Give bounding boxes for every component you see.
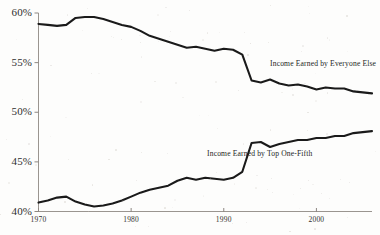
series-line-everyone-else — [39, 17, 373, 93]
paper-speck — [87, 8, 88, 9]
series-line-top-one-fifth — [39, 131, 373, 206]
paper-speck — [140, 101, 142, 103]
paper-speck — [113, 37, 114, 38]
paper-speck — [327, 37, 328, 38]
paper-speck — [199, 115, 200, 116]
paper-speck — [175, 82, 177, 84]
paper-speck — [272, 192, 273, 193]
paper-speck — [285, 155, 286, 156]
paper-speck — [329, 198, 330, 199]
paper-speck — [271, 178, 272, 179]
paper-speck — [122, 200, 124, 202]
paper-speck — [293, 194, 294, 195]
paper-speck — [349, 182, 350, 183]
paper-speck — [16, 39, 17, 40]
paper-speck — [189, 10, 190, 11]
y-tick-label: 60% — [0, 7, 32, 18]
paper-speck — [170, 31, 171, 32]
plot-area — [0, 0, 380, 235]
paper-speck — [247, 54, 249, 56]
paper-speck — [292, 88, 293, 89]
paper-speck — [91, 73, 92, 74]
paper-speck — [292, 94, 294, 96]
paper-speck — [202, 39, 204, 41]
paper-speck — [250, 43, 251, 44]
paper-speck — [270, 129, 272, 131]
paper-speck — [368, 94, 369, 95]
paper-speck — [111, 36, 112, 37]
x-tick-label: 1970 — [19, 216, 59, 224]
paper-speck — [302, 45, 304, 47]
paper-speck — [244, 32, 245, 33]
y-tick-label: 55% — [0, 57, 32, 68]
paper-speck — [148, 226, 149, 227]
paper-speck — [174, 199, 176, 201]
paper-speck — [139, 35, 141, 37]
paper-speck — [346, 15, 348, 17]
paper-speck — [50, 65, 51, 66]
paper-speck — [158, 41, 159, 42]
paper-speck — [64, 201, 66, 203]
paper-speck — [321, 193, 322, 194]
paper-speck — [157, 14, 159, 16]
paper-speck — [361, 61, 362, 62]
paper-speck — [340, 179, 341, 180]
x-tick-label: 1990 — [204, 216, 244, 224]
series-label-top-one-fifth: Income Earned by Top One-Fifth — [207, 149, 312, 158]
paper-speck — [326, 133, 328, 135]
paper-speck — [238, 90, 239, 91]
paper-speck — [35, 164, 37, 166]
y-tick-label: 50% — [0, 106, 32, 117]
x-tick-label: 1980 — [111, 216, 151, 224]
paper-speck — [315, 100, 317, 102]
paper-speck — [88, 211, 89, 212]
paper-speck — [255, 187, 257, 189]
paper-speck — [215, 81, 217, 83]
paper-speck — [167, 153, 168, 154]
series-label-everyone-else: Income Earned by Everyone Else — [270, 59, 376, 68]
paper-speck — [0, 214, 1, 215]
x-tick-label: 2000 — [296, 216, 336, 224]
paper-speck — [289, 231, 290, 232]
y-axis-ticks — [35, 13, 39, 212]
axis-lines — [39, 13, 373, 212]
paper-speck — [27, 165, 28, 166]
paper-speck — [315, 73, 316, 74]
paper-speck — [140, 42, 141, 43]
paper-speck — [21, 164, 22, 165]
paper-speck — [28, 143, 30, 145]
paper-speck — [164, 207, 166, 209]
paper-speck — [8, 182, 10, 184]
paper-speck — [182, 97, 183, 98]
paper-speck — [115, 149, 117, 151]
income-share-line-chart: 40%45%50%55%60% 1970198019902000 Income … — [0, 0, 380, 235]
paper-speck — [333, 61, 335, 63]
paper-speck — [314, 228, 316, 230]
paper-speck — [217, 128, 218, 129]
paper-speck — [92, 184, 93, 185]
